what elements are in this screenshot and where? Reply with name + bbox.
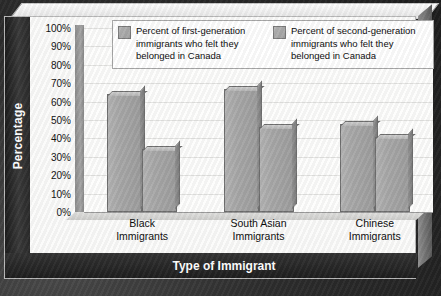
legend-label: Percent of first-generationimmigrants wh… <box>136 25 245 64</box>
x-category-label-line: Immigrants <box>230 230 286 243</box>
legend-label-line: Percent of second-generation <box>291 25 416 38</box>
y-tick-label: 50% <box>51 115 71 126</box>
x-category-label-line: Immigrants <box>116 230 168 243</box>
x-category-label-line: Chinese <box>349 217 401 230</box>
bar <box>340 124 375 212</box>
y-axis-title-band: Percentage <box>5 17 30 255</box>
chart-figure: Percentage Type of Immigrant 100%90%80%7… <box>0 0 441 296</box>
bar-side-face <box>175 141 180 209</box>
y-tick-label: 40% <box>51 133 71 144</box>
legend-swatch-icon <box>118 26 131 39</box>
x-category-label: South AsianImmigrants <box>230 217 286 243</box>
x-category-label: BlackImmigrants <box>116 217 168 243</box>
bar <box>375 137 410 212</box>
x-category-labels: BlackImmigrantsSouth AsianImmigrantsChin… <box>84 217 433 253</box>
plot-panel: 100%90%80%70%60%50%40%30%20%10%0% BlackI… <box>30 17 415 253</box>
x-axis-title: Type of Immigrant <box>146 259 275 273</box>
legend: Percent of first-generationimmigrants wh… <box>112 20 434 69</box>
x-category-label-line: Black <box>116 217 168 230</box>
legend-swatch-icon <box>273 26 286 39</box>
y-tick-label: 70% <box>51 78 71 89</box>
y-tick-label: 100% <box>45 23 71 34</box>
legend-label-line: immigrants who felt they <box>136 38 245 51</box>
legend-label: Percent of second-generationimmigrants w… <box>291 25 416 64</box>
legend-label-line: belonged in Canada <box>136 50 245 63</box>
y-tick-label: 80% <box>51 59 71 70</box>
y-tick-labels: 100%90%80%70%60%50%40%30%20%10%0% <box>30 28 74 209</box>
y-tick-label: 60% <box>51 96 71 107</box>
y-tick-label: 90% <box>51 41 71 52</box>
x-category-label-line: Immigrants <box>349 230 401 243</box>
y-tick-label: 30% <box>51 151 71 162</box>
legend-item: Percent of second-generationimmigrants w… <box>273 25 428 64</box>
legend-label-line: Percent of first-generation <box>136 25 245 38</box>
bar <box>142 149 177 212</box>
chart-block: Percentage Type of Immigrant 100%90%80%7… <box>4 16 416 279</box>
y-tick-label: 10% <box>51 188 71 199</box>
plot-left-wall <box>75 25 84 212</box>
bar <box>224 89 259 212</box>
bar <box>107 94 142 212</box>
x-category-label-line: South Asian <box>230 217 286 230</box>
bar-side-face <box>292 119 297 209</box>
bar-side-face <box>408 128 413 209</box>
x-category-label: ChineseImmigrants <box>349 217 401 243</box>
x-axis-title-band: Type of Immigrant <box>5 253 417 278</box>
legend-label-line: immigrants who felt they <box>291 38 416 51</box>
legend-label-line: belonged in Canada <box>291 50 416 63</box>
y-axis-title: Percentage <box>5 17 30 255</box>
legend-item: Percent of first-generationimmigrants wh… <box>118 25 273 64</box>
bar <box>259 127 294 212</box>
y-tick-label: 20% <box>51 170 71 181</box>
